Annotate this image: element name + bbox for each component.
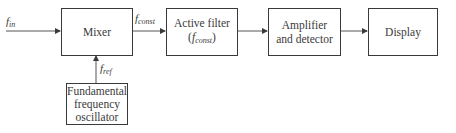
oscillator-label-line1: Fundamental [67,85,127,98]
oscillator-label-line3: oscillator [67,111,127,124]
active-filter-frequency: (fconst) [174,30,230,48]
signal-label-f-in: fin [6,15,15,29]
oscillator-label-line2: frequency [67,98,127,111]
signal-label-f-ref: fref [100,62,112,76]
active-filter-label: Active filter [174,16,230,30]
amplifier-detector-block: Amplifier and detector [268,8,341,56]
display-block: Display [368,8,438,56]
mixer-block: Mixer [61,8,133,56]
signal-label-f-const: fconst [135,12,155,26]
active-filter-block: Active filter (fconst) [166,8,238,56]
display-label: Display [385,25,421,39]
mixer-label: Mixer [83,25,111,39]
oscillator-block: Fundamental frequency oscillator [66,83,128,125]
amplifier-label-line2: and detector [276,32,333,46]
amplifier-label-line1: Amplifier [276,18,333,32]
